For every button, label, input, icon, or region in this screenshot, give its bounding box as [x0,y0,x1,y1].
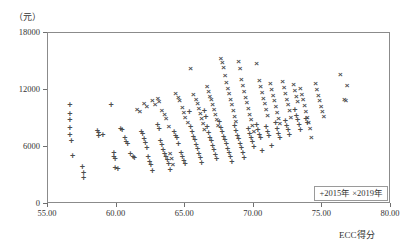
data-point-plus: + [258,134,263,142]
y-axis-tick-label: 12000 [0,84,40,94]
x-axis-tick-label: 70.00 [243,208,262,218]
data-point-cross: × [265,112,270,120]
data-point-plus: + [81,174,86,182]
data-point-plus: + [287,131,292,139]
data-point-plus: + [183,160,188,168]
legend-item: +2015年 [319,188,350,199]
data-point-plus: + [269,142,274,150]
legend-item: ×2019年 [352,188,383,199]
x-axis-tick-mark [184,203,185,207]
data-point-cross: × [188,65,193,73]
y-axis-tick-label: 6000 [0,141,40,151]
data-point-plus: + [125,140,130,148]
chart-legend: +2015年×2019年 [314,186,388,201]
x-axis-tick-mark [253,203,254,207]
data-point-plus: + [298,126,303,134]
x-axis-tick-label: 80.00 [380,208,399,218]
data-point-plus: + [199,159,204,167]
y-axis-tick-mark [43,203,47,204]
data-point-cross: × [138,108,143,116]
y-axis-tick-label: 18000 [0,27,40,37]
legend-label: 2019年 [357,188,383,198]
data-point-cross: × [321,113,326,121]
data-point-cross: × [144,103,149,111]
x-axis-tick-mark [321,203,322,207]
data-point-cross: × [202,126,207,134]
data-point-plus: + [115,165,120,173]
x-axis-tick-label: 65.00 [175,208,194,218]
data-point-plus: + [251,143,256,151]
data-point-cross: × [251,128,256,136]
x-axis-tick-mark [47,203,48,207]
data-point-cross: × [289,114,294,122]
data-point-plus: + [242,154,247,162]
data-point-cross: × [238,65,243,73]
data-point-plus: + [277,134,282,142]
x-axis-tick-label: 55.00 [37,208,56,218]
data-point-plus: + [132,154,137,162]
x-axis-tick-label: 75.00 [312,208,331,218]
x-axis-tick-mark [390,203,391,207]
data-point-cross: × [338,71,343,79]
data-point-plus: + [108,101,113,109]
x-axis-tick-mark [116,203,117,207]
legend-label: 2015年 [324,188,350,198]
data-point-cross: × [309,134,314,142]
data-point-plus: + [266,132,271,140]
data-point-plus: + [100,131,105,139]
data-point-cross: × [343,97,348,105]
data-point-cross: × [308,125,313,133]
x-axis-tick-label: 60.00 [106,208,125,218]
data-point-plus: + [156,125,161,133]
scatter-chart-figure: （元） ++++++++++++++++++++++++++++++++++++… [0,0,413,247]
data-point-plus: + [229,158,234,166]
data-point-cross: × [295,98,300,106]
data-point-plus: + [150,167,155,175]
data-point-plus: + [70,152,75,160]
data-point-cross: × [234,118,239,126]
data-point-cross: × [186,119,191,127]
data-point-cross: × [278,120,283,128]
y-axis-unit-label: （元） [14,10,41,23]
data-point-plus: + [259,147,264,155]
data-point-cross: × [171,161,176,169]
data-point-cross: × [345,82,350,90]
data-point-cross: × [254,60,259,68]
data-point-plus: + [69,137,74,145]
data-point-plus: + [214,155,219,163]
plot-area: ++++++++++++++++++++++++++++++++++++++++… [47,32,390,203]
data-point-cross: × [166,123,171,131]
x-axis-title: ECC得分 [339,228,375,241]
data-point-cross: × [216,122,221,130]
y-axis-tick-label: 0 [0,198,40,208]
